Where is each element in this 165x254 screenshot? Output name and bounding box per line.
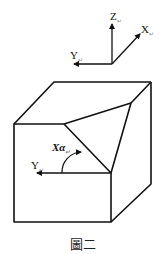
- front-y-label: Y↵: [31, 160, 44, 173]
- angle-label: Xα↵: [52, 142, 70, 155]
- cut-cube: [14, 82, 151, 222]
- diagram-canvas: [0, 0, 165, 254]
- cut-back-edge: [131, 82, 151, 103]
- y-axis-label: Y↵: [70, 50, 83, 63]
- cut-plane-edges: [64, 103, 131, 173]
- z-axis-label: Z↵: [110, 11, 122, 24]
- x-axis-arrow: [112, 34, 140, 64]
- figure-caption: 圖二: [0, 234, 165, 253]
- coordinate-axes: [74, 24, 140, 64]
- x-axis-label: X↵: [141, 24, 154, 37]
